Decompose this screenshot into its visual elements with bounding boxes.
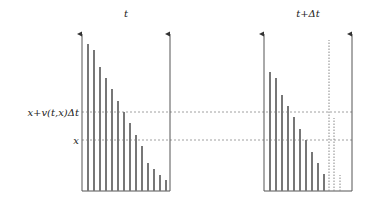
panels: tt+Δt	[82, 8, 352, 191]
panel-0: t	[82, 8, 170, 191]
shift-diagram: tt+Δt x+v(t,x)Δtx	[0, 0, 368, 201]
panel-title: t	[124, 8, 129, 19]
panel-title: t+Δt	[296, 8, 321, 19]
panel-1: t+Δt	[264, 8, 352, 191]
level-label: x	[73, 135, 79, 146]
level-lines	[82, 112, 352, 140]
level-label: x+v(t,x)Δt	[27, 107, 80, 118]
level-labels: x+v(t,x)Δtx	[27, 107, 80, 146]
